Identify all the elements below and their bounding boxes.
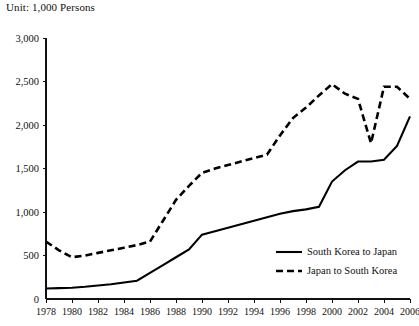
- x-tick-label: 1982: [88, 306, 108, 317]
- x-tick-label: 1988: [166, 306, 186, 317]
- series-line-2: [46, 84, 410, 257]
- x-tick-label: 2002: [348, 306, 368, 317]
- legend-label-1: South Korea to Japan: [307, 246, 398, 257]
- x-tick-label: 1986: [140, 306, 160, 317]
- y-tick-label: 1,500: [15, 163, 39, 174]
- x-tick-label: 2006: [400, 306, 419, 317]
- y-tick-label: 2,000: [15, 120, 39, 131]
- x-tick-label: 1998: [296, 306, 316, 317]
- x-tick-label: 1978: [36, 306, 56, 317]
- x-tick-label: 1996: [270, 306, 290, 317]
- plot-area: 05001,0001,5002,0002,5003,00019781980198…: [0, 0, 419, 326]
- x-tick-label: 1984: [114, 306, 134, 317]
- x-tick-label: 1980: [62, 306, 82, 317]
- legend-label-2: Japan to South Korea: [307, 265, 397, 276]
- x-tick-label: 2000: [322, 306, 342, 317]
- y-tick-label: 1,000: [15, 207, 39, 218]
- series-line-1: [46, 116, 410, 288]
- line-chart: Unit: 1,000 Persons 05001,0001,5002,0002…: [0, 0, 419, 326]
- y-tick-label: 0: [34, 294, 39, 305]
- x-tick-label: 1990: [192, 306, 212, 317]
- y-tick-label: 3,000: [15, 33, 39, 44]
- x-tick-label: 1992: [218, 306, 238, 317]
- y-tick-label: 500: [23, 250, 39, 261]
- x-tick-label: 1994: [244, 306, 264, 317]
- x-tick-label: 2004: [374, 306, 394, 317]
- y-tick-label: 2,500: [15, 76, 39, 87]
